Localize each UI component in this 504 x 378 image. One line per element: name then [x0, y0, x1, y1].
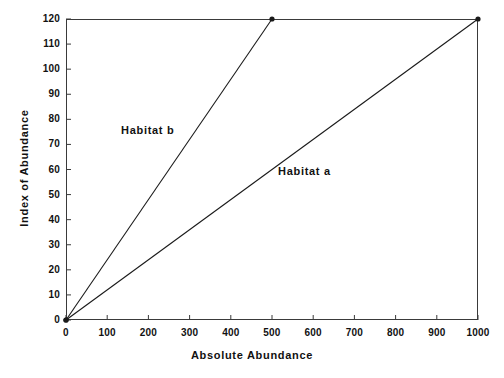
y-tick-label: 100 — [28, 64, 60, 74]
series-label-habitat-b: Habitat b — [121, 124, 174, 136]
x-tick-label: 200 — [140, 328, 157, 338]
y-tick-label: 50 — [28, 190, 60, 200]
x-tick-label: 1000 — [466, 328, 489, 338]
series-lines — [66, 19, 478, 320]
series-line-habitat-b — [66, 19, 272, 320]
y-tick-label: 20 — [28, 265, 60, 275]
x-axis-ticks — [66, 315, 478, 320]
x-tick-label: 600 — [305, 328, 322, 338]
y-tick-label: 120 — [28, 14, 60, 24]
y-axis-ticks — [66, 19, 71, 320]
x-tick-label: 900 — [428, 328, 445, 338]
x-tick-label: 700 — [346, 328, 363, 338]
y-tick-label: 0 — [28, 315, 60, 325]
plot-canvas — [0, 0, 504, 378]
data-point-marker — [475, 16, 480, 21]
data-point-marker — [63, 317, 68, 322]
series-line-habitat-a — [66, 19, 478, 320]
y-tick-label: 90 — [28, 89, 60, 99]
y-tick-label: 40 — [28, 215, 60, 225]
x-tick-label: 800 — [387, 328, 404, 338]
y-tick-label: 80 — [28, 114, 60, 124]
data-point-marker — [269, 16, 274, 21]
y-tick-label: 70 — [28, 139, 60, 149]
y-axis-title: Index of Abundance — [18, 68, 30, 268]
y-tick-label: 60 — [28, 165, 60, 175]
x-tick-label: 500 — [263, 328, 280, 338]
chart-figure: 0102030405060708090100110120 01002003004… — [0, 0, 504, 378]
x-tick-label: 0 — [63, 328, 69, 338]
y-tick-label: 30 — [28, 240, 60, 250]
y-tick-label: 10 — [28, 290, 60, 300]
y-tick-label: 110 — [28, 39, 60, 49]
series-label-habitat-a: Habitat a — [278, 165, 331, 177]
x-tick-label: 300 — [181, 328, 198, 338]
x-tick-label: 400 — [222, 328, 239, 338]
x-axis-title: Absolute Abundance — [0, 349, 504, 361]
x-tick-label: 100 — [99, 328, 116, 338]
